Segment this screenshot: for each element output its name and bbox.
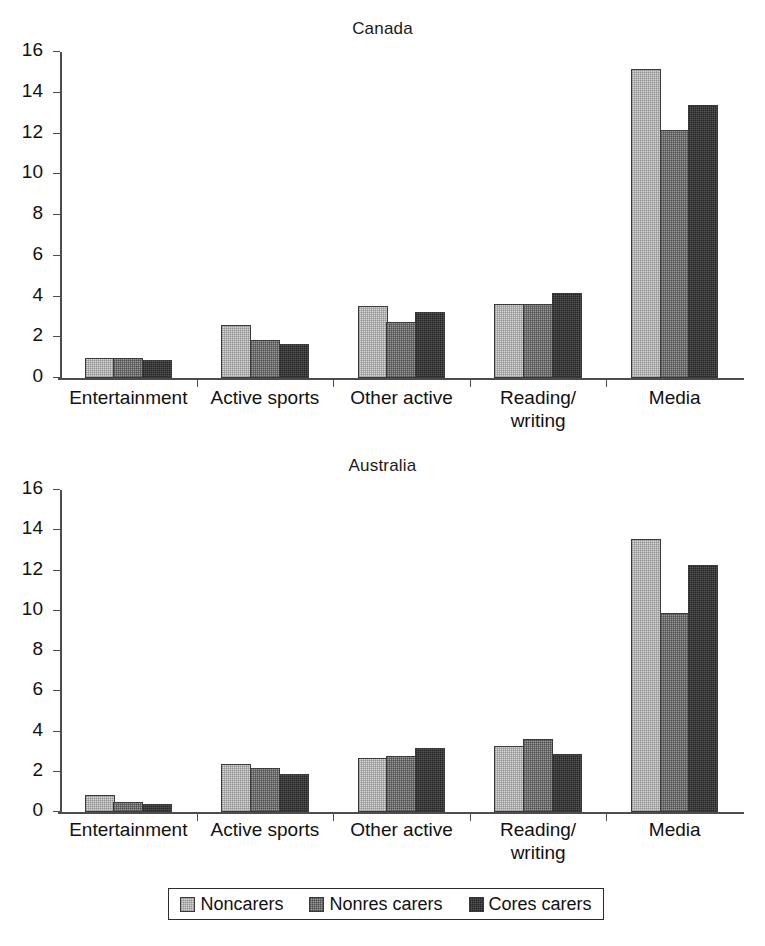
chart-title-canada: Canada bbox=[0, 19, 765, 39]
bar-australia-4-2 bbox=[688, 565, 718, 812]
y-tick-label-canada-6: 6 bbox=[32, 244, 43, 264]
y-tick-australia-4: 4 bbox=[53, 731, 60, 732]
x-axis-label-canada-3: Reading/ writing bbox=[470, 386, 607, 432]
y-tick-australia-16: 16 bbox=[53, 489, 60, 490]
bar-group-canada-3 bbox=[470, 52, 607, 378]
bar-australia-2-0 bbox=[358, 758, 388, 812]
x-axis-label-australia-1: Active sports bbox=[197, 818, 334, 841]
x-axis-label-canada-4: Media bbox=[606, 386, 743, 409]
y-tick-label-canada-8: 8 bbox=[32, 203, 43, 223]
bar-australia-1-2 bbox=[279, 774, 309, 812]
y-tick-label-australia-6: 6 bbox=[32, 679, 43, 699]
bar-group-canada-2 bbox=[333, 52, 470, 378]
legend-swatch-nonres-carers bbox=[309, 897, 324, 912]
bar-group-bars bbox=[470, 490, 607, 812]
y-tick-label-canada-12: 12 bbox=[22, 122, 43, 142]
bar-canada-3-2 bbox=[552, 293, 582, 378]
x-axis-australia bbox=[58, 812, 744, 814]
bar-canada-2-0 bbox=[358, 306, 388, 378]
bar-australia-3-1 bbox=[523, 739, 553, 812]
y-tick-label-canada-10: 10 bbox=[22, 162, 43, 182]
bar-group-australia-3 bbox=[470, 490, 607, 812]
bar-canada-3-1 bbox=[523, 304, 553, 378]
y-tick-canada-0: 0 bbox=[53, 377, 60, 378]
bar-australia-1-1 bbox=[250, 768, 280, 812]
bar-australia-1-0 bbox=[221, 764, 251, 812]
legend-label-1: Nonres carers bbox=[329, 894, 442, 914]
bar-canada-1-1 bbox=[250, 340, 280, 378]
bar-group-bars bbox=[470, 52, 607, 378]
y-tick-label-canada-2: 2 bbox=[32, 325, 43, 345]
legend-entry-0: Noncarers bbox=[180, 894, 283, 914]
y-tick-label-australia-14: 14 bbox=[22, 518, 43, 538]
x-axis-label-australia-2: Other active bbox=[333, 818, 470, 841]
bar-canada-4-1 bbox=[660, 130, 690, 378]
y-tick-label-australia-10: 10 bbox=[22, 599, 43, 619]
bar-group-australia-0 bbox=[60, 490, 197, 812]
bar-canada-3-0 bbox=[494, 304, 524, 378]
bar-australia-3-0 bbox=[494, 746, 524, 812]
x-axis-canada bbox=[58, 378, 744, 380]
y-tick-label-australia-16: 16 bbox=[22, 478, 43, 498]
y-tick-label-canada-4: 4 bbox=[32, 285, 43, 305]
legend-label-2: Cores carers bbox=[489, 894, 592, 914]
bar-australia-2-2 bbox=[415, 748, 445, 812]
y-tick-label-australia-4: 4 bbox=[32, 720, 43, 740]
y-tick-australia-0: 0 bbox=[53, 811, 60, 812]
x-axis-label-australia-4: Media bbox=[606, 818, 743, 841]
y-tick-australia-10: 10 bbox=[53, 610, 60, 611]
bar-group-bars bbox=[333, 490, 470, 812]
bar-group-australia-1 bbox=[197, 490, 334, 812]
y-tick-australia-12: 12 bbox=[53, 570, 60, 571]
bar-canada-0-0 bbox=[85, 358, 115, 378]
y-tick-label-canada-0: 0 bbox=[32, 366, 43, 386]
bar-group-bars bbox=[197, 490, 334, 812]
bar-group-australia-2 bbox=[333, 490, 470, 812]
bar-canada-1-0 bbox=[221, 325, 251, 378]
bar-canada-1-2 bbox=[279, 344, 309, 378]
y-tick-label-canada-14: 14 bbox=[22, 81, 43, 101]
y-tick-label-australia-0: 0 bbox=[32, 800, 43, 820]
y-tick-australia-8: 8 bbox=[53, 650, 60, 651]
bar-australia-4-1 bbox=[660, 613, 690, 812]
bar-group-bars bbox=[606, 52, 743, 378]
figure-two-panel-bar-charts: Canada 0246810121416 EntertainmentActive… bbox=[0, 0, 765, 946]
plot-area-australia: 0246810121416 bbox=[60, 490, 743, 812]
y-tick-canada-12: 12 bbox=[53, 133, 60, 134]
chart-title-australia: Australia bbox=[0, 456, 765, 476]
x-axis-label-canada-1: Active sports bbox=[197, 386, 334, 409]
chart-panel-australia: Australia 0246810121416 EntertainmentAct… bbox=[0, 440, 765, 870]
legend-entry-1: Nonres carers bbox=[309, 894, 442, 914]
x-axis-label-canada-0: Entertainment bbox=[60, 386, 197, 409]
legend-entry-2: Cores carers bbox=[469, 894, 592, 914]
bar-group-canada-1 bbox=[197, 52, 334, 378]
bar-group-bars bbox=[197, 52, 334, 378]
legend-swatch-noncarers bbox=[180, 897, 195, 912]
y-tick-label-australia-12: 12 bbox=[22, 559, 43, 579]
bar-canada-2-2 bbox=[415, 312, 445, 378]
y-tick-label-canada-16: 16 bbox=[22, 40, 43, 60]
x-axis-label-canada-2: Other active bbox=[333, 386, 470, 409]
y-tick-label-australia-8: 8 bbox=[32, 639, 43, 659]
chart-panel-canada: Canada 0246810121416 EntertainmentActive… bbox=[0, 0, 765, 440]
y-tick-canada-14: 14 bbox=[53, 92, 60, 93]
legend-swatch-cores-carers bbox=[469, 897, 484, 912]
bar-canada-4-0 bbox=[631, 69, 661, 378]
x-axis-label-australia-3: Reading/ writing bbox=[470, 818, 607, 864]
x-axis-label-australia-0: Entertainment bbox=[60, 818, 197, 841]
bar-australia-3-2 bbox=[552, 754, 582, 812]
y-tick-canada-10: 10 bbox=[53, 173, 60, 174]
legend-label-0: Noncarers bbox=[200, 894, 283, 914]
y-tick-label-australia-2: 2 bbox=[32, 760, 43, 780]
bar-group-bars bbox=[60, 490, 197, 812]
y-tick-canada-16: 16 bbox=[53, 51, 60, 52]
chart-legend: NoncarersNonres carersCores carers bbox=[168, 888, 604, 920]
bar-australia-0-0 bbox=[85, 795, 115, 812]
bar-group-canada-0 bbox=[60, 52, 197, 378]
y-tick-australia-6: 6 bbox=[53, 690, 60, 691]
bar-group-australia-4 bbox=[606, 490, 743, 812]
y-tick-canada-8: 8 bbox=[53, 214, 60, 215]
y-tick-australia-2: 2 bbox=[53, 771, 60, 772]
plot-area-canada: 0246810121416 bbox=[60, 52, 743, 378]
bar-canada-0-2 bbox=[142, 360, 172, 378]
